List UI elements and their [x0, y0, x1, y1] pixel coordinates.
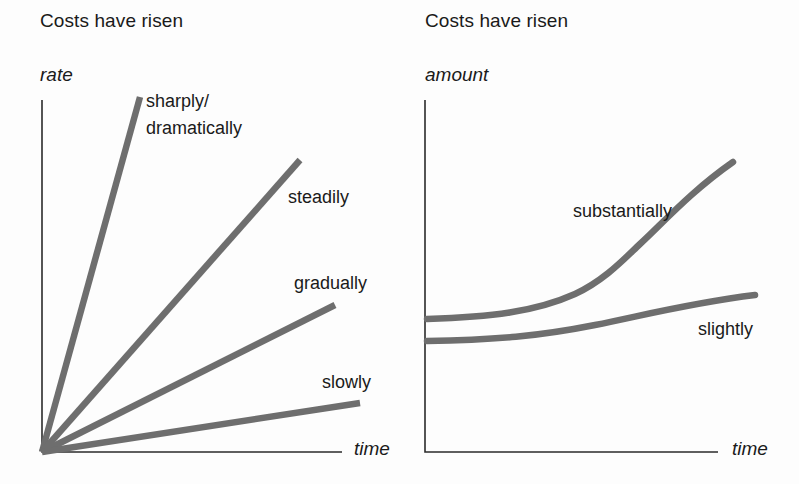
series-label-dramatically: dramatically: [146, 117, 242, 139]
x-axis-label-right: time: [732, 438, 768, 460]
series-label-substantially: substantially: [573, 200, 672, 222]
amount-plot-area: [400, 0, 799, 484]
series-label-slightly: slightly: [698, 318, 753, 340]
series-label-sharply: sharply/: [146, 90, 209, 112]
axes-right: [425, 100, 718, 452]
series-label-steadily: steadily: [288, 186, 349, 208]
series-label-slowly: slowly: [322, 371, 371, 393]
amount-panel: Costs have risen amount substantially sl…: [400, 0, 799, 484]
figure-canvas: Costs have risen rate sharply/ dramatica…: [0, 0, 799, 484]
series-curve-substantially: [427, 162, 733, 319]
x-axis-label: time: [354, 438, 390, 460]
rate-plot-area: [0, 0, 400, 484]
series-label-gradually: gradually: [294, 272, 367, 294]
rate-panel: Costs have risen rate sharply/ dramatica…: [0, 0, 400, 484]
